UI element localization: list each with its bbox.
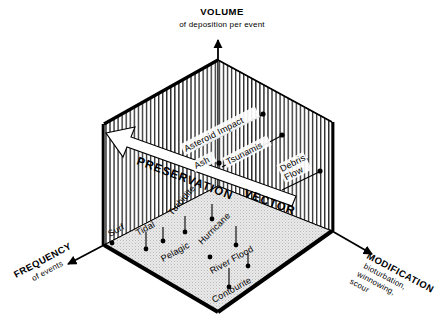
- data-point-dot: [161, 239, 166, 244]
- data-point-dot: [246, 264, 251, 269]
- data-point-dot: [260, 111, 265, 116]
- data-point-dot: [279, 132, 284, 137]
- frequency-axis: [68, 245, 104, 264]
- modification-axis: [332, 231, 372, 254]
- data-point-dot: [234, 243, 239, 248]
- diagram-canvas: VOLUME of deposition per event FREQUENCY…: [0, 0, 445, 329]
- data-point-dot: [317, 168, 322, 173]
- data-point-dot: [183, 230, 188, 235]
- wall-point-ash: [216, 160, 221, 165]
- data-point-dot: [208, 255, 213, 260]
- data-point-dot: [144, 247, 149, 252]
- floor-point-pelagic: [208, 255, 213, 260]
- volume-axis-subtitle: of deposition per event: [179, 20, 265, 29]
- volume-axis-title: VOLUME: [200, 6, 243, 17]
- data-point-dot: [110, 241, 115, 246]
- floor-point-surf: [110, 241, 115, 246]
- data-point-dot: [216, 160, 221, 165]
- conceptual-cube-diagram: VOLUME of deposition per event FREQUENCY…: [0, 0, 445, 329]
